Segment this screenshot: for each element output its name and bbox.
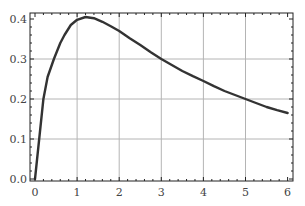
x-tick-label: 5 <box>242 186 249 199</box>
x-axis-tick-labels: 0123456 <box>32 186 292 199</box>
y-tick-label: 0.1 <box>10 133 28 146</box>
grid-lines <box>30 13 293 181</box>
x-tick-label: 6 <box>284 186 291 199</box>
y-tick-label: 0.0 <box>10 173 28 186</box>
y-axis-tick-labels: 0.00.10.20.30.4 <box>10 13 28 186</box>
x-tick-label: 0 <box>32 186 39 199</box>
x-tick-label: 1 <box>74 186 81 199</box>
y-tick-label: 0.2 <box>10 93 28 106</box>
line-chart: 0123456 0.00.10.20.30.4 <box>0 0 305 206</box>
x-tick-label: 2 <box>116 186 123 199</box>
x-tick-label: 4 <box>200 186 207 199</box>
y-tick-label: 0.3 <box>10 53 28 66</box>
x-tick-label: 3 <box>158 186 165 199</box>
y-tick-label: 0.4 <box>10 13 28 26</box>
